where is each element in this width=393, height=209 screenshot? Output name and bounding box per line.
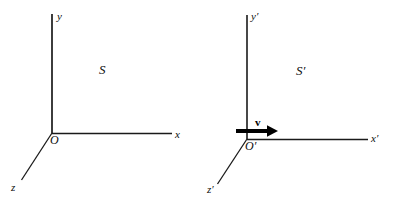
z-prime-axis-line xyxy=(218,139,248,184)
origin-label-O: O xyxy=(50,134,59,146)
frame-label-S: S xyxy=(99,63,106,76)
z-axis-line xyxy=(22,133,53,180)
x-prime-axis-label: x′ xyxy=(371,133,378,144)
y-axis-label: y xyxy=(57,11,62,22)
y-prime-axis-label: y′ xyxy=(251,11,258,22)
diagram-canvas xyxy=(0,0,393,209)
z-axis-label: z xyxy=(11,182,15,193)
velocity-vector-label: v xyxy=(255,117,261,128)
z-prime-axis-label: z′ xyxy=(207,184,214,195)
x-axis-label: x xyxy=(175,129,180,140)
velocity-vector-head xyxy=(267,125,278,137)
reference-frames-diagram: y x z O S y′ x′ z′ O′ S′ v xyxy=(0,0,393,209)
frame-label-S-prime: S′ xyxy=(296,64,305,77)
frame-S-prime-axes xyxy=(218,15,369,184)
origin-label-O-prime: O′ xyxy=(245,140,256,152)
frame-S-axes xyxy=(22,14,173,180)
